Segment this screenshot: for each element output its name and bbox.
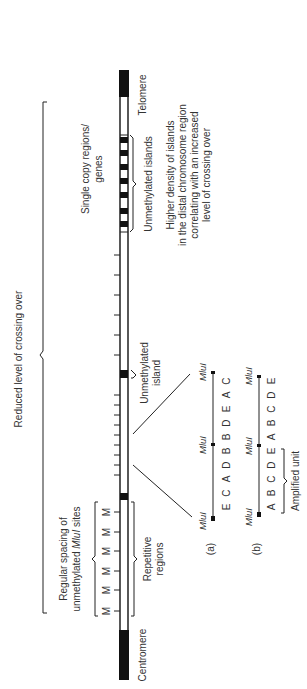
mlui-site-label: MluI bbox=[243, 437, 254, 455]
telomere-block bbox=[119, 70, 129, 97]
map-b-label: (b) bbox=[251, 543, 262, 555]
chromosome-diagram: Reduced level of crossing over Regular s… bbox=[0, 0, 307, 689]
amplified-unit-label: Amplified unit bbox=[290, 451, 301, 511]
svg-text:A: A bbox=[221, 391, 232, 398]
svg-text:B: B bbox=[266, 489, 277, 496]
svg-text:D: D bbox=[221, 461, 232, 468]
svg-text:C: C bbox=[266, 475, 277, 482]
svg-text:C: C bbox=[221, 489, 232, 496]
mlui-site-label: MluI bbox=[197, 363, 208, 381]
svg-text:A: A bbox=[221, 475, 232, 482]
repetitive-label-1: Repetitive bbox=[142, 536, 153, 581]
unmethylated-island-group: Unmethylated island bbox=[131, 342, 162, 404]
m-site-label: M bbox=[101, 586, 112, 594]
higher-density-note: Higher density of islands in the distal … bbox=[165, 104, 212, 246]
regular-spacing-label-2: unmethylated MluI sites bbox=[71, 506, 82, 611]
m-site-labels: M M M M M M bbox=[101, 508, 112, 615]
svg-text:E: E bbox=[221, 503, 232, 510]
regular-spacing-group: Regular spacing of unmethylated MluI sit… bbox=[58, 502, 98, 616]
chromosome-bar bbox=[114, 70, 129, 680]
svg-text:E: E bbox=[221, 405, 232, 412]
unmethylated-island-block bbox=[120, 370, 128, 378]
repetitive-regions-group: Repetitive regions bbox=[131, 502, 165, 616]
centromere-label: Centromere bbox=[137, 628, 148, 681]
single-copy-label-1: Single copy regions/ bbox=[80, 124, 91, 214]
restriction-map-a: (a) MluI MluI MluI E C A D B B D E A C bbox=[197, 363, 232, 555]
m-site-label: M bbox=[101, 508, 112, 516]
svg-text:A: A bbox=[266, 433, 277, 440]
unmethylated-islands-label: Unmethylated islands bbox=[143, 136, 154, 232]
svg-text:B: B bbox=[221, 433, 232, 440]
single-copy-label-2: genes bbox=[93, 155, 104, 182]
regular-spacing-bracket bbox=[92, 502, 98, 616]
svg-text:C: C bbox=[221, 377, 232, 384]
reduced-crossing-label: Reduced level of crossing over bbox=[13, 290, 24, 427]
m-site-label: M bbox=[101, 607, 112, 615]
svg-text:D: D bbox=[266, 461, 277, 468]
svg-text:E: E bbox=[266, 447, 277, 454]
svg-text:E: E bbox=[266, 377, 277, 384]
svg-text:A: A bbox=[266, 503, 277, 510]
mlui-site-label: MluI bbox=[243, 367, 254, 385]
svg-text:level of crossing over: level of crossing over bbox=[201, 127, 212, 222]
unmethylated-island-label-2: island bbox=[151, 360, 162, 386]
repetitive-label-2: regions bbox=[154, 543, 165, 576]
m-site-label: M bbox=[101, 567, 112, 575]
unmethylated-islands-group: Unmethylated islands bbox=[130, 135, 154, 232]
amplified-unit-bracket bbox=[281, 449, 287, 513]
svg-text:B: B bbox=[266, 419, 277, 426]
mlui-site-label: MluI bbox=[243, 508, 254, 526]
regular-spacing-label-1: Regular spacing of bbox=[58, 517, 69, 601]
svg-text:B: B bbox=[221, 447, 232, 454]
m-site-label: M bbox=[101, 547, 112, 555]
zoom-line-left bbox=[133, 465, 192, 517]
m-site-label: M bbox=[101, 528, 112, 536]
svg-text:Higher density of islands: Higher density of islands bbox=[165, 121, 176, 230]
unmethylated-island-label-1: Unmethylated bbox=[139, 342, 150, 404]
svg-text:C: C bbox=[266, 405, 277, 412]
svg-text:D: D bbox=[221, 419, 232, 426]
telomere-label: Telomere bbox=[137, 74, 148, 116]
svg-text:in the distal chromosome regio: in the distal chromosome region bbox=[177, 104, 188, 246]
diagram-stage: Reduced level of crossing over Regular s… bbox=[0, 0, 307, 689]
map-a-label: (a) bbox=[205, 543, 216, 555]
restriction-map-b: (b) MluI MluI MluI A B C D E A B C D E A… bbox=[243, 367, 301, 555]
repetitive-block bbox=[120, 493, 128, 500]
mlui-site-label: MluI bbox=[197, 436, 208, 454]
svg-text:D: D bbox=[266, 391, 277, 398]
reduced-crossing-bracket: Reduced level of crossing over bbox=[13, 102, 47, 613]
centromere-block bbox=[119, 630, 129, 680]
mlui-site-label: MluI bbox=[197, 512, 208, 530]
svg-text:correlating with an increased: correlating with an increased bbox=[189, 111, 200, 238]
